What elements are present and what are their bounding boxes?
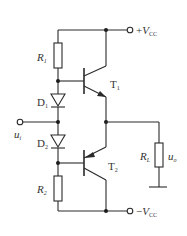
resistor-r1	[54, 43, 62, 94]
label-r2: R2	[36, 183, 47, 196]
label-vcc-positive: +VCC	[136, 24, 157, 37]
resistor-r2	[54, 176, 62, 211]
label-r1: R1	[36, 51, 47, 64]
label-output: uo	[168, 150, 177, 163]
label-t1: T1	[110, 78, 120, 91]
label-input: ui	[14, 128, 22, 141]
vcc-negative-terminal	[127, 208, 133, 214]
negative-supply-rail	[58, 208, 133, 214]
label-rl: RL	[139, 150, 151, 163]
label-vcc-negative: −VCC	[136, 205, 157, 218]
emitter-arrow-icon	[97, 91, 106, 97]
diode-d1	[51, 94, 65, 135]
diode-d2	[51, 135, 65, 176]
transistor-t1	[56, 30, 106, 122]
input-node	[17, 119, 60, 125]
output-node	[104, 120, 167, 187]
circuit-diagram: R1 D1 T1 ui D2 T2 R2 RL uo +VCC −VCC	[0, 0, 187, 236]
positive-supply-rail	[58, 27, 133, 43]
label-d1: D1	[37, 96, 48, 109]
label-t2: T2	[108, 160, 118, 173]
vcc-positive-terminal	[127, 27, 133, 33]
resistor-rl	[155, 143, 163, 167]
label-d2: D2	[37, 137, 48, 150]
input-terminal	[17, 119, 23, 125]
